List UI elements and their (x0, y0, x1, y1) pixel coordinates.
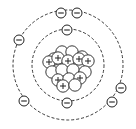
electron (62, 98, 72, 108)
electron (14, 35, 24, 45)
electron (56, 8, 66, 18)
atom-diagram (0, 0, 136, 129)
electron (19, 96, 29, 106)
neutron (69, 79, 81, 91)
proton (57, 80, 69, 92)
electron (72, 8, 82, 18)
nucleus (43, 46, 94, 92)
atom-diagram-svg (0, 0, 136, 129)
electron (62, 25, 72, 35)
electron (107, 97, 117, 107)
proton (82, 55, 94, 67)
electron (116, 83, 126, 93)
